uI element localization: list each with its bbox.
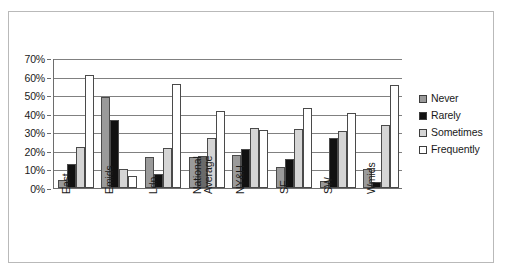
- series-swatch-rarely-icon: [419, 112, 427, 120]
- y-tick-label: 10%: [25, 165, 45, 175]
- x-category-label: Emids: [104, 165, 115, 194]
- y-tick-mark: [47, 59, 51, 60]
- y-tick-mark: [47, 115, 51, 116]
- series-swatch-sometimes-icon: [419, 129, 427, 137]
- y-tick-label: 30%: [25, 128, 45, 138]
- bar-east-frequently: [85, 75, 94, 188]
- legend-label: Rarely: [431, 110, 461, 121]
- legend-item-sometimes[interactable]: Sometimes: [419, 124, 499, 141]
- bar-ny-h-frequently: [259, 130, 268, 188]
- y-tick-label: 70%: [25, 54, 45, 64]
- legend-label: Sometimes: [431, 127, 483, 138]
- chart-legend: NeverRarelySometimesFrequently: [419, 90, 499, 158]
- x-category-label: SW: [323, 177, 334, 194]
- legend-label: Frequently: [431, 144, 480, 155]
- bar-east-sometimes: [76, 147, 85, 188]
- y-tick-label: 50%: [25, 91, 45, 101]
- bar-emids-frequently: [128, 176, 137, 188]
- bar-se-sometimes: [294, 129, 303, 188]
- bar-group: [272, 59, 316, 188]
- x-category-label: NY&H: [235, 165, 246, 194]
- bar-group: [141, 59, 185, 188]
- series-swatch-never-icon: [419, 95, 427, 103]
- x-category-label: Average: [203, 156, 214, 194]
- y-tick-label: 40%: [25, 110, 45, 120]
- bar-group: [54, 59, 98, 188]
- bar-se-frequently: [303, 108, 312, 188]
- y-tick-label: 20%: [25, 147, 45, 157]
- y-tick-mark: [47, 96, 51, 97]
- y-axis: 0%10%20%30%40%50%60%70%: [9, 52, 51, 196]
- legend-item-never[interactable]: Never: [419, 90, 499, 107]
- legend-item-frequently[interactable]: Frequently: [419, 141, 499, 158]
- y-tick-mark: [47, 78, 51, 79]
- y-tick-mark: [47, 152, 51, 153]
- x-category-label: Wmids: [366, 162, 377, 194]
- bar-ldn-sometimes: [163, 148, 172, 188]
- y-tick-label: 0%: [30, 184, 45, 194]
- bar-wmids-frequently: [390, 85, 399, 188]
- bar-group: [316, 59, 360, 188]
- bar-ldn-frequently: [172, 84, 181, 188]
- y-tick-mark: [47, 170, 51, 171]
- x-category-label: Ldn: [148, 177, 159, 194]
- bar-wmids-sometimes: [381, 125, 390, 188]
- bar-sw-frequently: [347, 113, 356, 188]
- chart-frame: 0%10%20%30%40%50%60%70% NeverRarelySomet…: [8, 11, 494, 263]
- x-category-label: SE: [279, 180, 290, 194]
- y-tick-label: 60%: [25, 73, 45, 83]
- y-tick-mark: [47, 133, 51, 134]
- y-tick-mark: [47, 189, 51, 190]
- legend-item-rarely[interactable]: Rarely: [419, 107, 499, 124]
- x-category-label: East: [61, 173, 72, 194]
- bar-emids-sometimes: [119, 169, 128, 188]
- series-swatch-frequently-icon: [419, 146, 427, 154]
- bar-sw-sometimes: [338, 131, 347, 188]
- bar-national-average-frequently: [216, 111, 225, 188]
- legend-label: Never: [431, 93, 459, 104]
- bar-ny-h-sometimes: [250, 128, 259, 188]
